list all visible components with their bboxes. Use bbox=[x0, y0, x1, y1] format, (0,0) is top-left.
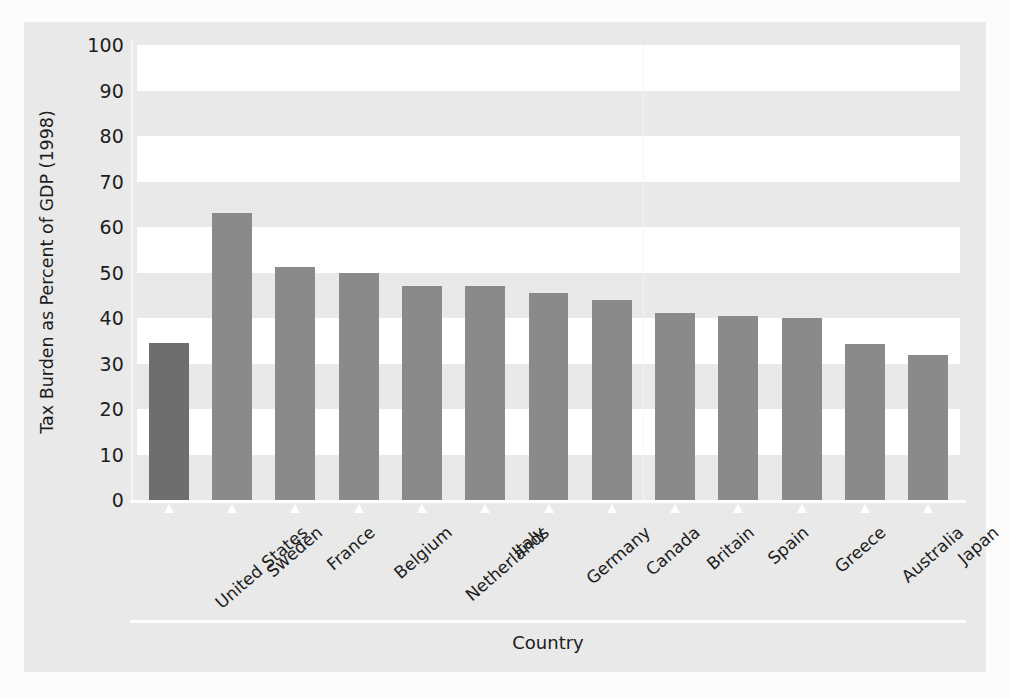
x-axis-tick-label: Britain bbox=[703, 522, 758, 574]
x-axis-tick-label: Germany bbox=[582, 522, 654, 588]
x-axis-tick-label: Japan bbox=[954, 522, 1003, 568]
x-axis-title-rule bbox=[130, 620, 966, 623]
x-axis-title: Country bbox=[130, 632, 966, 653]
x-axis-tick-label: Greece bbox=[831, 522, 890, 577]
x-axis-tick-label: France bbox=[323, 522, 379, 574]
x-axis-tick-label: Belgium bbox=[390, 522, 456, 583]
x-axis-tick-labels: United StatesSwedenFranceBelgiumNetherla… bbox=[0, 0, 1010, 698]
x-axis-tick-label: Spain bbox=[764, 522, 813, 568]
x-axis-tick-label: Canada bbox=[642, 522, 704, 580]
chart-page: 1009080706050403020100 Tax Burden as Per… bbox=[0, 0, 1010, 698]
